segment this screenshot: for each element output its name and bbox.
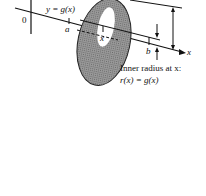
caption-line-1: Inner radius at x: xyxy=(120,64,181,73)
x-tick-label: x xyxy=(100,34,104,43)
arrow-up-icon xyxy=(155,47,159,52)
curve-label: y = g(x) xyxy=(46,5,75,14)
b-label: b xyxy=(146,47,151,56)
x-axis-label: x xyxy=(187,48,191,57)
origin-label: 0 xyxy=(22,16,27,25)
arrow-down-icon xyxy=(155,33,159,38)
caption-line-2: r(x) = g(x) xyxy=(120,76,159,85)
arrow-up-icon xyxy=(171,7,175,12)
washer-diagram xyxy=(0,0,206,196)
a-label: a xyxy=(65,25,70,34)
outer-curve-line xyxy=(130,0,182,8)
x-axis-arrow-icon xyxy=(179,49,186,55)
